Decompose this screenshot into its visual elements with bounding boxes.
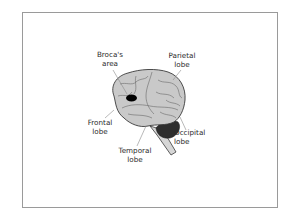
label-brocas-area: Broca's area	[88, 50, 132, 68]
label-parietal-lobe: Parietal lobe	[160, 51, 204, 69]
label-frontal-lobe: Frontal lobe	[80, 118, 120, 136]
brain-diagram	[0, 0, 294, 218]
broca-area-marker	[126, 95, 137, 102]
label-temporal-lobe: Temporal lobe	[110, 146, 160, 164]
label-occipital-lobe: Occipital lobe	[174, 128, 218, 146]
